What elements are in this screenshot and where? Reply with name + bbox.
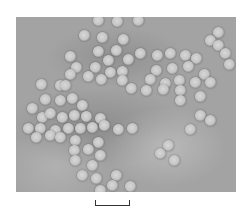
virus-particle: [163, 140, 174, 151]
virus-particle: [67, 93, 78, 104]
virus-particle: [118, 34, 129, 45]
virus-particle: [165, 48, 176, 59]
virus-particle: [79, 30, 90, 41]
virus-particle: [55, 95, 66, 106]
virus-particle: [95, 150, 106, 161]
virus-particle: [111, 45, 122, 56]
virus-particle: [141, 85, 152, 96]
virus-particle: [112, 17, 123, 27]
virus-particle: [93, 46, 104, 57]
virus-particle: [224, 59, 235, 70]
virus-particle: [113, 124, 124, 135]
virus-particle: [65, 69, 76, 80]
virus-particle: [158, 84, 169, 95]
virus-particle: [127, 123, 138, 134]
virus-particle: [60, 80, 71, 91]
virus-particle: [65, 51, 76, 62]
virus-particle: [91, 173, 102, 184]
virus-particle: [40, 94, 51, 105]
virus-particle: [31, 132, 42, 143]
virus-particle: [125, 181, 136, 192]
virus-particle: [45, 108, 56, 119]
virus-particle: [81, 111, 92, 122]
virus-particle: [133, 17, 144, 26]
virus-particle: [83, 71, 94, 82]
virus-particle: [126, 83, 137, 94]
virus-particle: [77, 170, 88, 181]
virus-particle: [105, 67, 116, 78]
virus-particle: [195, 91, 206, 102]
virus-particle: [185, 124, 196, 135]
virus-particle: [93, 137, 104, 148]
virus-particle: [87, 122, 98, 133]
virus-particle: [75, 123, 86, 134]
virus-particle: [93, 17, 104, 26]
virus-particle: [175, 95, 186, 106]
virus-particle: [190, 77, 201, 88]
virus-particle: [205, 77, 216, 88]
virus-particle: [169, 155, 180, 166]
virus-particle: [27, 103, 38, 114]
virus-particle: [220, 48, 231, 59]
virus-particle: [36, 79, 47, 90]
virus-particle: [135, 48, 146, 59]
virus-particle: [152, 50, 163, 61]
virus-particle: [180, 50, 191, 61]
virus-particle: [183, 61, 194, 72]
virus-particle: [70, 155, 81, 166]
virus-particle: [107, 180, 118, 191]
virus-particle: [69, 110, 80, 121]
virus-particle: [205, 115, 216, 126]
virus-particle: [167, 63, 178, 74]
virus-particle: [123, 54, 134, 65]
virus-particle: [57, 112, 68, 123]
virus-particle: [83, 144, 94, 155]
virus-micrograph: [16, 17, 236, 192]
virus-particle: [99, 120, 110, 131]
virus-particle: [87, 160, 98, 171]
scale-bar: [95, 200, 130, 206]
virus-particle: [145, 74, 156, 85]
virus-particle: [77, 100, 88, 111]
virus-particle: [96, 74, 107, 85]
virus-particle: [55, 132, 66, 143]
virus-particle: [95, 185, 106, 192]
virus-particle: [97, 32, 108, 43]
virus-particle: [103, 55, 114, 66]
virus-particle: [63, 123, 74, 134]
